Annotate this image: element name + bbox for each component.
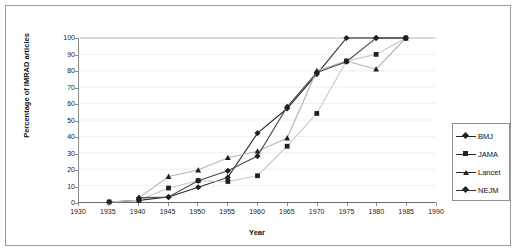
- y-axis-tick-label: 80: [49, 67, 75, 75]
- y-axis-tick-label: 0: [49, 199, 75, 207]
- x-axis-tick-mark: [347, 203, 348, 206]
- y-axis-tick-label: 40: [49, 133, 75, 141]
- y-axis-tick-label: 20: [49, 166, 75, 174]
- legend: BMJJAMALancetNEJM: [452, 123, 510, 201]
- series-jama: [107, 36, 408, 205]
- x-axis-tick-label: 1955: [212, 207, 242, 216]
- triangle-glyph-icon: [463, 170, 469, 175]
- x-axis-tick-label: 1950: [182, 207, 212, 216]
- y-axis-tick-labels: 0102030405060708090100: [46, 38, 75, 203]
- legend-marker-diamond-icon: [456, 131, 476, 141]
- legend-marker-triangle-icon: [456, 167, 476, 177]
- data-point-marker: [195, 184, 201, 190]
- x-axis-tick-mark: [197, 203, 198, 206]
- series-lancet: [136, 35, 409, 200]
- x-axis-tick-label: 1990: [421, 207, 451, 216]
- y-axis-tick-label: 60: [49, 100, 75, 108]
- x-axis-tick-label: 1935: [93, 207, 123, 216]
- y-axis-tick-label: 50: [49, 117, 75, 125]
- x-axis-tick-mark: [376, 203, 377, 206]
- legend-item-jama[interactable]: JAMA: [453, 145, 509, 163]
- series-nejm: [136, 35, 409, 201]
- diamond-glyph-icon: [462, 186, 469, 193]
- series-line: [139, 38, 406, 198]
- x-axis-tick-label: 1985: [391, 207, 421, 216]
- legend-marker-diamond-icon: [456, 185, 476, 195]
- series-bmj: [106, 35, 409, 205]
- x-axis-tick-mark: [287, 203, 288, 206]
- data-point-marker: [225, 168, 231, 174]
- data-point-marker: [225, 179, 230, 184]
- data-point-marker: [374, 52, 379, 57]
- legend-item-nejm[interactable]: NEJM: [453, 181, 509, 199]
- y-axis-tick-label: 10: [49, 183, 75, 191]
- x-axis-tick-mark: [78, 203, 79, 206]
- y-axis-title: Percentage of IMRAD articles: [22, 6, 31, 166]
- x-axis-tick-mark: [257, 203, 258, 206]
- x-axis-tick-mark: [406, 203, 407, 206]
- x-axis-tick-mark: [108, 203, 109, 206]
- figure-frame: 0102030405060708090100 19301935194019451…: [5, 5, 511, 246]
- legend-item-bmj[interactable]: BMJ: [453, 127, 509, 145]
- x-axis-tick-label: 1945: [153, 207, 183, 216]
- data-point-marker: [166, 186, 171, 191]
- legend-label: JAMA: [476, 150, 498, 159]
- x-axis-tick-mark: [138, 203, 139, 206]
- data-point-marker: [254, 153, 260, 159]
- x-axis-tick-mark: [317, 203, 318, 206]
- diamond-glyph-icon: [462, 132, 469, 139]
- legend-label: NEJM: [476, 186, 498, 195]
- x-axis-tick-mark: [227, 203, 228, 206]
- x-axis-tick-mark: [168, 203, 169, 206]
- legend-marker-square-icon: [456, 149, 476, 159]
- x-axis-tick-label: 1980: [361, 207, 391, 216]
- data-point-marker: [284, 135, 290, 140]
- x-axis-tick-label: 1975: [332, 207, 362, 216]
- data-point-marker: [255, 173, 260, 178]
- x-axis-title: Year: [78, 228, 436, 237]
- legend-label: BMJ: [476, 132, 493, 141]
- chart-screenshot: 0102030405060708090100 19301935194019451…: [0, 0, 517, 252]
- y-axis-tick-label: 100: [49, 34, 75, 42]
- data-point-marker: [314, 111, 319, 116]
- square-glyph-icon: [463, 151, 468, 156]
- data-point-marker: [285, 144, 290, 149]
- y-axis-tick-label: 30: [49, 150, 75, 158]
- data-point-marker: [165, 194, 171, 200]
- plot-area: [78, 38, 436, 203]
- x-axis-tick-mark: [436, 203, 437, 206]
- y-axis-tick-label: 90: [49, 51, 75, 59]
- legend-item-lancet[interactable]: Lancet: [453, 163, 509, 181]
- x-axis-tick-label: 1965: [272, 207, 302, 216]
- x-axis-tick-labels: 1930193519401945195019551960196519701975…: [78, 207, 436, 219]
- x-axis-tick-label: 1930: [63, 207, 93, 216]
- x-axis-tick-label: 1970: [302, 207, 332, 216]
- x-axis-tick-label: 1940: [123, 207, 153, 216]
- legend-label: Lancet: [476, 168, 501, 177]
- data-series-layer: [79, 38, 436, 202]
- x-axis-tick-label: 1960: [242, 207, 272, 216]
- y-axis-tick-label: 70: [49, 84, 75, 92]
